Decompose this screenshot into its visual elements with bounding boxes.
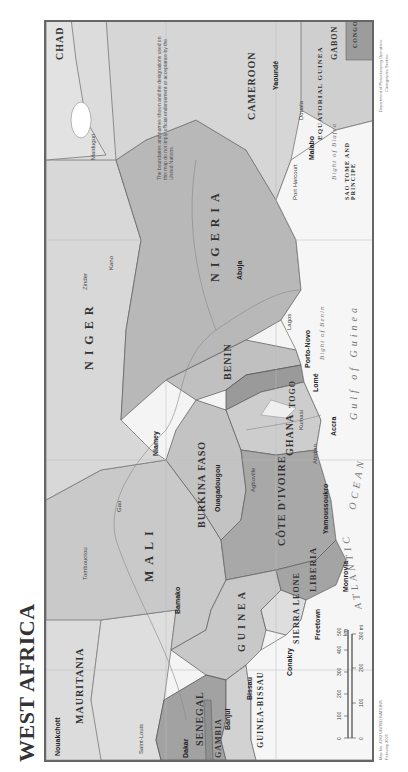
label-bight-of-biafra: Bight of Biafra xyxy=(330,123,338,180)
country-label-gabon: GABON xyxy=(330,26,339,60)
scale-mi-200: 200 xyxy=(358,664,364,672)
capital-malabo: Malabo xyxy=(308,136,315,160)
country-label-nigeria: NIGERIA xyxy=(208,187,223,282)
country-label-sao-tome: SAO TOME AND PRINCIPE xyxy=(344,140,356,200)
city-douala: Douala xyxy=(298,101,304,120)
scale-bar: 0 100 200 300 400 500 km 0 100 200 300 m… xyxy=(334,620,374,740)
country-label-guinea: GUINEA xyxy=(236,588,247,652)
country-label-liberia: LIBERIA xyxy=(308,547,318,592)
scale-km-400: 400 xyxy=(336,646,342,654)
scale-mi-300: 300 mi xyxy=(358,625,364,640)
map-frame: MAURITANIA MALI NIGER NIGERIA CHAD CAMER… xyxy=(44,20,374,762)
city-zinder: Zinder xyxy=(82,273,88,290)
country-label-benin: BENIN xyxy=(222,343,233,380)
capital-yamoussoukro: Yamoussoukro xyxy=(322,484,329,534)
city-kumasi: Kumasi xyxy=(298,410,304,430)
capital-ouagadougou: Ouagadougou xyxy=(214,465,221,512)
label-bight-of-benin: Bight of Benin xyxy=(318,306,326,360)
country-label-ghana: GHANA xyxy=(284,414,295,456)
country-label-congo: CONGO xyxy=(352,20,358,48)
city-maiduguri: Maiduguri xyxy=(90,134,96,160)
country-label-sierra-leone: SIERRA LEONE xyxy=(292,572,301,644)
credit-section: Cartographic Section xyxy=(384,55,389,92)
country-label-guinea-bissau: GUINEA-BISSAU xyxy=(256,671,265,748)
label-gulf-of-guinea: Gulf of Guinea xyxy=(348,304,359,420)
credit-department: Department of Peacekeeping Operations xyxy=(378,40,383,113)
country-label-cote-divoire: CÔTE D'IVOIRE xyxy=(276,456,287,546)
country-label-mauritania: MAURITANIA xyxy=(74,648,85,724)
capital-bamako: Bamako xyxy=(174,587,181,614)
country-label-equatorial-guinea: EQUATORIAL GUINEA xyxy=(316,46,324,140)
country-label-cameroon: CAMEROON xyxy=(246,51,257,120)
city-kano: Kano xyxy=(108,256,114,270)
country-label-togo: TOGO xyxy=(288,380,297,408)
map-title: WEST AFRICA xyxy=(14,603,40,762)
country-label-chad: CHAD xyxy=(54,27,65,60)
disclaimer-note: The boundaries and names shown and the d… xyxy=(156,30,174,180)
city-gao: Gao xyxy=(116,501,122,512)
country-label-senegal: SENEGAL xyxy=(194,691,205,746)
capital-nouakchott: Nouakchott xyxy=(54,718,61,757)
credit-map-number: Map No. 4242 UNITED NATIONS xyxy=(378,700,383,760)
scale-km-200: 200 xyxy=(336,690,342,698)
capital-banjul: Banjul xyxy=(224,709,231,730)
scale-km-300: 300 xyxy=(336,668,342,676)
country-label-mali: MALI xyxy=(142,525,157,582)
scale-mi-100: 100 xyxy=(358,699,364,707)
capital-dakar: Dakar xyxy=(182,739,189,758)
scale-km-500: 500 km xyxy=(336,620,348,636)
capital-niamey: Niamey xyxy=(152,431,159,456)
city-saint-louis: Saint-Louis xyxy=(138,724,144,754)
country-label-niger: NIGER xyxy=(82,301,97,370)
capital-conakry: Conakry xyxy=(286,648,293,676)
credit-date: February 2005 xyxy=(384,734,389,760)
city-port-harcourt: Port Harcourt xyxy=(292,164,298,200)
country-label-burkina-faso: BURKINA FASO xyxy=(196,441,207,528)
capital-yaounde: Yaoundé xyxy=(272,61,279,90)
city-tombouctou: Tombouctou xyxy=(82,547,88,580)
scale-mi-0: 0 xyxy=(358,737,364,740)
map-canvas: WEST AFRICA xyxy=(0,0,408,772)
capital-porto-novo: Porto-Novo xyxy=(304,330,311,368)
scale-km-0: 0 xyxy=(336,737,342,740)
capital-accra: Accra xyxy=(330,417,337,436)
map-graphic xyxy=(46,20,374,760)
city-abidjan: Abidjan xyxy=(312,444,318,464)
city-lagos: Lagos xyxy=(286,314,292,330)
capital-abuja: Abuja xyxy=(236,261,243,280)
capital-freetown: Freetown xyxy=(314,609,321,640)
country-label-gambia: GAMBIA xyxy=(214,718,223,758)
scale-km-100: 100 xyxy=(336,712,342,720)
city-bobo-dioulasso: Agboville xyxy=(250,468,256,492)
capital-bissau: Bissau xyxy=(246,677,253,700)
capital-lome: Lomé xyxy=(312,373,319,392)
